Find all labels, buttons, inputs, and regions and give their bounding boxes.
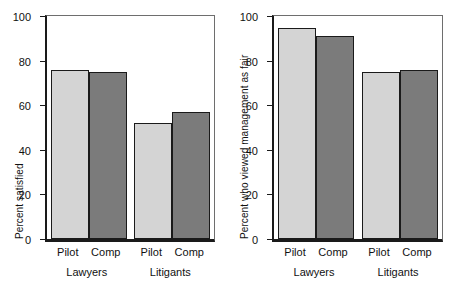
y-axis-tick-label: 40 <box>246 145 258 157</box>
x-axis-group-label-litigants: Litigants <box>378 266 419 278</box>
y-axis-tick: 0 <box>267 239 274 240</box>
bar-litigants-comp <box>400 70 438 239</box>
y-axis-tick-label: 0 <box>252 234 258 246</box>
y-axis-tick-label: 80 <box>246 56 258 68</box>
x-axis-subcategory-label: Comp <box>175 246 204 258</box>
y-axis-tick-label: 40 <box>19 145 31 157</box>
bar-lawyers-comp <box>316 36 354 239</box>
y-axis-tick-label: 60 <box>19 100 31 112</box>
plot-area-right: 020406080100 <box>272 15 443 242</box>
y-axis-tick: 40 <box>40 150 47 151</box>
y-axis-tick: 20 <box>40 194 47 195</box>
y-axis-tick-label: 60 <box>246 100 258 112</box>
y-axis-tick-label: 20 <box>19 189 31 201</box>
y-axis-tick: 80 <box>40 61 47 62</box>
x-axis-subcategory-label: Pilot <box>284 246 305 258</box>
x-axis-subcategory-label: Pilot <box>368 246 389 258</box>
x-axis-group-label-lawyers: Lawyers <box>294 266 335 278</box>
bar-litigants-comp <box>172 112 210 239</box>
y-axis-tick: 60 <box>40 105 47 106</box>
bar-litigants-pilot <box>362 72 400 239</box>
y-axis-tick-label: 0 <box>25 234 31 246</box>
chart-panel-percent-viewed-management-as-fair: Percent who viewed management as fair 02… <box>225 0 450 290</box>
bar-lawyers-pilot <box>51 70 89 239</box>
x-axis-subcategory-label: Pilot <box>141 246 162 258</box>
y-axis-tick: 100 <box>267 16 274 17</box>
y-axis-tick-label: 80 <box>19 56 31 68</box>
y-axis-tick: 20 <box>267 194 274 195</box>
y-axis-tick: 40 <box>267 150 274 151</box>
bar-litigants-pilot <box>134 123 172 239</box>
y-axis-tick-label: 100 <box>13 11 31 23</box>
x-axis-group-label-litigants: Litigants <box>150 266 191 278</box>
y-axis-tick-label: 100 <box>240 11 258 23</box>
x-axis-subcategory-label: Comp <box>402 246 431 258</box>
y-axis-tick: 60 <box>267 105 274 106</box>
plot-area-left: 020406080100 <box>45 15 215 242</box>
x-axis-subcategory-label: Pilot <box>57 246 78 258</box>
figure-two-panel-bar-charts: Percent satisfied 020406080100 PilotComp… <box>0 0 450 290</box>
y-axis-tick: 100 <box>40 16 47 17</box>
y-axis-tick-label: 20 <box>246 189 258 201</box>
x-axis-group-label-lawyers: Lawyers <box>66 266 107 278</box>
bar-lawyers-comp <box>89 72 127 239</box>
chart-panel-percent-satisfied: Percent satisfied 020406080100 PilotComp… <box>0 0 225 290</box>
bar-lawyers-pilot <box>278 28 316 239</box>
y-axis-tick: 0 <box>40 239 47 240</box>
y-axis-tick: 80 <box>267 61 274 62</box>
x-axis-subcategory-label: Comp <box>318 246 347 258</box>
x-axis-subcategory-label: Comp <box>91 246 120 258</box>
